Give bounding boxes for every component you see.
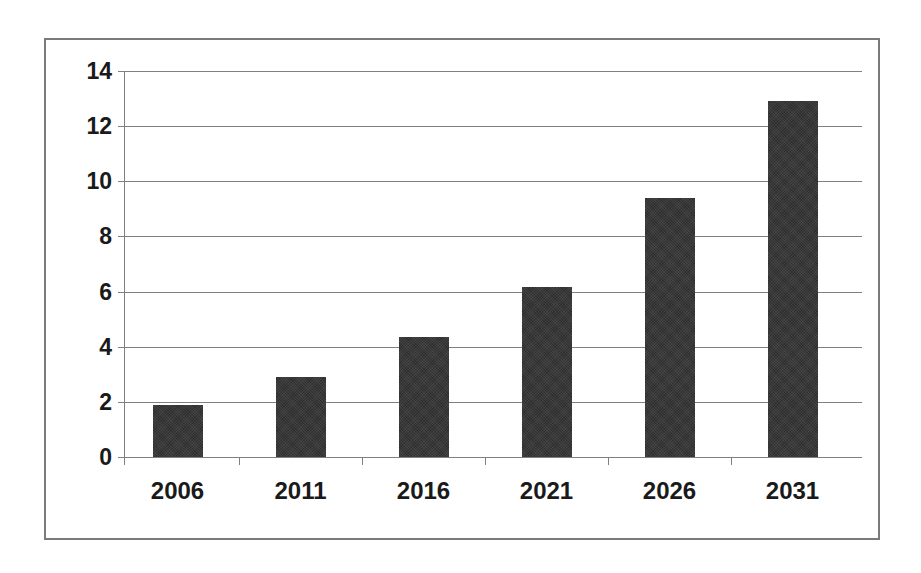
bar-2031: [768, 101, 818, 457]
x-axis-label-2021: 2021: [520, 477, 573, 505]
y-axis-tick-labels: 02468101214: [46, 71, 112, 457]
bar-2016: [399, 337, 449, 457]
x-axis-label-2031: 2031: [766, 477, 819, 505]
bar-2011: [276, 377, 326, 457]
bar-2021: [522, 287, 572, 457]
gridline-4: [124, 347, 862, 348]
plot-area: [124, 71, 862, 457]
y-tick-mark-14: [118, 71, 124, 72]
chart-frame: 02468101214 200620112016202120262031: [44, 38, 880, 540]
bar-2006: [153, 405, 203, 457]
y-tick-mark-6: [118, 292, 124, 293]
bar-chart: 02468101214 200620112016202120262031: [46, 40, 878, 538]
gridline-2: [124, 402, 862, 403]
y-axis-label-12: 12: [72, 115, 112, 138]
y-axis-label-4: 4: [72, 335, 112, 358]
gridline-10: [124, 181, 862, 182]
x-tick-mark-1: [239, 457, 240, 465]
gridline-6: [124, 292, 862, 293]
y-tick-mark-2: [118, 402, 124, 403]
y-axis-label-8: 8: [72, 225, 112, 248]
y-axis-label-6: 6: [72, 280, 112, 303]
y-axis-label-10: 10: [72, 170, 112, 193]
x-tick-mark-5: [731, 457, 732, 465]
x-axis-label-2016: 2016: [397, 477, 450, 505]
bar-2026: [645, 198, 695, 457]
gridline-14: [124, 71, 862, 72]
y-tick-mark-0: [118, 457, 124, 458]
y-axis-label-14: 14: [72, 60, 112, 83]
y-axis-label-0: 0: [72, 446, 112, 469]
y-tick-mark-8: [118, 236, 124, 237]
gridline-12: [124, 126, 862, 127]
x-tick-mark-3: [485, 457, 486, 465]
gridline-0: [124, 457, 862, 458]
y-tick-mark-4: [118, 347, 124, 348]
x-tick-mark-2: [362, 457, 363, 465]
y-tick-mark-12: [118, 126, 124, 127]
x-axis-label-2026: 2026: [643, 477, 696, 505]
x-axis-label-2006: 2006: [151, 477, 204, 505]
x-axis-label-2011: 2011: [274, 477, 326, 505]
y-tick-mark-10: [118, 181, 124, 182]
x-tick-mark-4: [608, 457, 609, 465]
gridline-8: [124, 236, 862, 237]
y-axis-label-2: 2: [72, 390, 112, 413]
